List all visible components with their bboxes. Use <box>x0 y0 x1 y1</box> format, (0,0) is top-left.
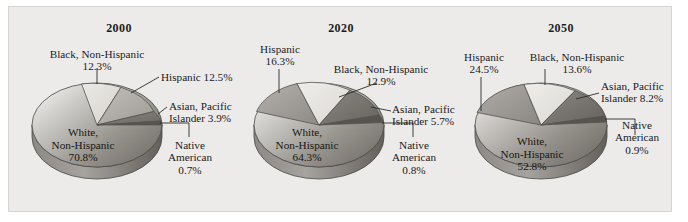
label-native-line1-2000: Native <box>175 139 205 151</box>
label-white-line1-2020: White, <box>292 126 322 138</box>
label-black-value-2000: 12.3% <box>83 60 112 72</box>
label-hispanic-value-2050: 24.5% <box>470 63 499 75</box>
label-black-value-2050: 13.6% <box>563 63 592 75</box>
label-white-value-2020: 64.3% <box>293 151 322 163</box>
pie-graphic-2050 <box>449 7 673 213</box>
label-native-american-2050: Native American 0.9% <box>606 119 668 156</box>
pie-chart-2050: 2050 <box>449 7 673 213</box>
label-asian-line2-2000: Islander 3.9% <box>169 112 231 124</box>
label-black-value-2020: 12.9% <box>367 75 396 87</box>
label-hispanic-text-2000: Hispanic 12.5% <box>161 71 232 83</box>
label-white-non-hispanic-2000: White, Non-Hispanic 70.8% <box>29 126 137 164</box>
label-hispanic-2050: Hispanic 24.5% <box>449 51 519 76</box>
label-native-line1-2020: Native <box>399 139 429 151</box>
label-native-value-2050: 0.9% <box>625 144 648 156</box>
label-black-non-hispanic-2020: Black, Non-Hispanic 12.9% <box>315 63 447 88</box>
figure-pie-charts-race-ethnicity: 2000 <box>0 0 688 222</box>
label-hispanic-value-2020: 16.3% <box>266 55 295 67</box>
label-asian-pacific-islander-2020: Asian, Pacific Islander 5.7% <box>392 103 455 128</box>
label-white-line1-2000: White, <box>68 126 98 138</box>
label-black-non-hispanic-2050: Black, Non-Hispanic 13.6% <box>513 51 641 76</box>
label-black-name-2020: Black, Non-Hispanic <box>334 63 428 75</box>
label-hispanic-2020: Hispanic 16.3% <box>243 43 317 68</box>
label-black-name-2000: Black, Non-Hispanic <box>50 48 144 60</box>
label-hispanic-name-2050: Hispanic <box>464 51 504 63</box>
figure-panel: 2000 <box>8 6 672 212</box>
label-asian-pacific-islander-2050: Asian, Pacific Islander 8.2% <box>601 80 664 105</box>
pie-chart-2000: 2000 <box>9 7 229 213</box>
label-hispanic-name-2020: Hispanic <box>260 43 300 55</box>
label-asian-line1-2020: Asian, Pacific <box>392 103 455 115</box>
label-asian-line1-2050: Asian, Pacific <box>601 80 664 92</box>
label-native-value-2020: 0.8% <box>402 164 425 176</box>
label-asian-line1-2000: Asian, Pacific <box>169 100 232 112</box>
label-black-name-2050: Black, Non-Hispanic <box>530 51 624 63</box>
label-native-american-2020: Native American 0.8% <box>384 139 444 176</box>
label-white-value-2050: 52.8% <box>518 160 547 172</box>
label-native-line1-2050: Native <box>622 119 652 131</box>
label-native-value-2000: 0.7% <box>178 164 201 176</box>
label-white-line1-2050: White, <box>517 135 547 147</box>
label-hispanic-2000: Hispanic 12.5% <box>161 71 232 83</box>
label-white-non-hispanic-2020: White, Non-Hispanic 64.3% <box>253 126 361 164</box>
label-white-line2-2050: Non-Hispanic <box>501 148 564 160</box>
label-native-american-2000: Native American 0.7% <box>160 139 220 176</box>
label-native-line2-2000: American <box>168 151 212 163</box>
label-black-non-hispanic-2000: Black, Non-Hispanic 12.3% <box>15 48 179 73</box>
label-asian-line2-2050: Islander 8.2% <box>601 92 663 104</box>
pie-chart-2020: 2020 <box>231 7 451 213</box>
label-native-line2-2050: American <box>615 131 659 143</box>
label-asian-pacific-islander-2000: Asian, Pacific Islander 3.9% <box>169 100 232 125</box>
label-white-line2-2020: Non-Hispanic <box>276 139 339 151</box>
label-asian-line2-2020: Islander 5.7% <box>392 115 454 127</box>
label-white-non-hispanic-2050: White, Non-Hispanic 52.8% <box>477 135 587 173</box>
label-white-value-2000: 70.8% <box>69 151 98 163</box>
label-native-line2-2020: American <box>392 151 436 163</box>
label-white-line2-2000: Non-Hispanic <box>52 139 115 151</box>
